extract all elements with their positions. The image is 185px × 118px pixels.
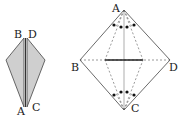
label-right-a: A <box>112 3 120 14</box>
label-left-c: C <box>32 102 40 113</box>
label-left-b: B <box>14 29 22 40</box>
label-left-a: A <box>17 106 25 117</box>
fold-a-inner-right <box>124 10 132 27</box>
label-right-c: C <box>131 103 139 114</box>
label-right-b: B <box>71 62 79 73</box>
label-left-d: D <box>28 29 37 40</box>
kite-right-half <box>27 38 45 107</box>
right-square-figure <box>80 10 170 110</box>
fold-a-left <box>105 10 124 60</box>
fold-c-inner-left <box>116 93 124 110</box>
label-right-d: D <box>169 62 178 73</box>
diagram-canvas <box>0 0 185 118</box>
left-kite-figure <box>6 38 45 107</box>
fold-c-left <box>105 60 124 110</box>
kite-left-half <box>6 38 24 107</box>
fold-a-right <box>124 10 143 60</box>
